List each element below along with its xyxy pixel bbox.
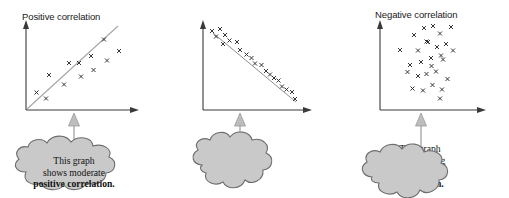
data-point	[293, 97, 297, 101]
trend-line	[213, 33, 296, 102]
data-point	[446, 77, 450, 81]
data-point	[62, 83, 66, 87]
data-point	[228, 39, 232, 43]
panel-none-graphics	[339, 0, 509, 198]
data-point	[44, 97, 48, 101]
panel-positive-correlation: Positive correlation This graph shows mo…	[0, 0, 170, 198]
callout-arrow-head	[416, 113, 427, 126]
data-point	[223, 33, 227, 37]
callout-cloud	[362, 144, 447, 198]
data-point	[406, 70, 410, 74]
data-point	[431, 83, 435, 87]
data-point	[411, 87, 415, 91]
y-axis-arrowhead	[377, 20, 383, 29]
data-point	[421, 89, 425, 93]
data-point	[260, 63, 264, 67]
data-point	[67, 61, 71, 65]
scatter-points	[210, 27, 297, 101]
data-point	[218, 27, 222, 31]
data-point	[422, 26, 426, 30]
data-point	[419, 60, 423, 64]
data-point	[245, 53, 249, 57]
panel-negative-correlation: Negative correlation This graph shows st…	[170, 0, 340, 198]
data-point	[89, 54, 93, 58]
data-point	[290, 90, 294, 94]
data-point	[398, 48, 402, 52]
data-point	[434, 70, 438, 74]
callout-cloud	[193, 132, 272, 188]
data-point	[439, 54, 443, 58]
panel-no-correlation: No correlation This graph shows no corre…	[339, 0, 509, 198]
data-point	[35, 91, 39, 95]
callout-cloud	[15, 136, 114, 190]
x-axis-arrowhead	[477, 107, 486, 113]
data-point	[431, 24, 435, 28]
data-point	[105, 59, 109, 63]
trend-line	[27, 26, 118, 109]
data-point	[451, 49, 455, 53]
data-point	[430, 64, 434, 68]
chart-title-positive: Positive correlation	[22, 11, 100, 22]
data-point	[280, 85, 284, 89]
panel-negative-graphics	[170, 0, 340, 198]
data-point	[238, 48, 242, 52]
data-point	[425, 72, 429, 76]
data-point	[210, 29, 214, 33]
data-point	[438, 32, 442, 36]
data-point	[416, 49, 420, 53]
callout-arrow-head	[235, 113, 246, 126]
data-point	[47, 73, 51, 77]
data-point	[412, 33, 416, 37]
data-point	[221, 42, 225, 46]
y-axis-arrowhead	[200, 20, 206, 29]
data-point	[79, 75, 83, 79]
data-point	[285, 88, 289, 92]
x-axis-arrowhead	[303, 107, 312, 113]
data-point	[416, 74, 420, 78]
data-point	[408, 63, 412, 67]
data-point	[440, 88, 444, 92]
callout-arrow-head	[69, 113, 80, 126]
data-point	[277, 79, 281, 83]
x-axis-arrowhead	[130, 107, 139, 113]
data-point	[250, 56, 254, 60]
data-point	[117, 49, 121, 53]
data-point	[441, 58, 445, 62]
correlation-diagram: Positive correlation This graph shows mo…	[0, 0, 509, 198]
data-point	[444, 42, 448, 46]
data-point	[438, 97, 442, 101]
data-point	[435, 45, 439, 49]
data-point	[272, 76, 276, 80]
data-point	[449, 25, 453, 29]
panel-positive-graphics	[0, 0, 170, 198]
data-point	[92, 68, 96, 72]
data-point	[264, 69, 268, 73]
data-point	[235, 40, 239, 44]
data-point	[253, 62, 257, 66]
scatter-points	[398, 24, 455, 101]
data-point	[429, 56, 433, 60]
data-point	[268, 73, 272, 77]
